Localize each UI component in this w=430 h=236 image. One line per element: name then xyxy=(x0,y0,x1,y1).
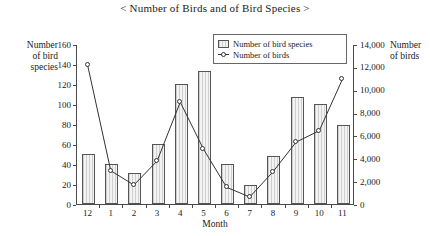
right-axis-title: Number of birds xyxy=(390,40,430,62)
y-tick-left-60: 60 xyxy=(43,141,71,150)
bar-month-5 xyxy=(198,71,211,204)
x-tick-mark-11 xyxy=(331,205,332,208)
y-tick-right-2000: 2,000 xyxy=(360,178,394,187)
y-tick-left-20: 20 xyxy=(43,181,71,190)
legend-label-bird-species: Number of bird species xyxy=(233,39,313,49)
x-tick-month-1: 1 xyxy=(101,209,121,218)
y-tick-mark-left-140 xyxy=(73,65,76,66)
y-tick-mark-right-8000 xyxy=(354,114,357,115)
y-tick-left-140: 140 xyxy=(43,61,71,70)
bar-month-3 xyxy=(152,144,165,204)
bar-month-2 xyxy=(128,173,141,204)
bar-swatch-icon xyxy=(218,40,229,48)
y-tick-right-4000: 4,000 xyxy=(360,155,394,164)
bar-month-12 xyxy=(82,154,95,204)
bar-month-7 xyxy=(244,185,257,204)
bar-month-8 xyxy=(267,156,280,204)
y-tick-mark-right-10000 xyxy=(354,91,357,92)
y-tick-right-8000: 8,000 xyxy=(360,109,394,118)
x-tick-month-9: 9 xyxy=(286,209,306,218)
right-axis-title-line1: Number xyxy=(390,40,430,51)
y-tick-left-40: 40 xyxy=(43,161,71,170)
y-tick-right-12000: 12,000 xyxy=(360,63,394,72)
right-axis-title-line2: of birds xyxy=(390,51,430,62)
bar-month-1 xyxy=(105,164,118,204)
bar-month-6 xyxy=(221,164,234,204)
y-tick-mark-right-14000 xyxy=(354,45,357,46)
y-tick-left-0: 0 xyxy=(43,201,71,210)
bar-month-10 xyxy=(314,104,327,204)
bar-month-4 xyxy=(175,84,188,204)
y-tick-left-80: 80 xyxy=(43,121,71,130)
y-tick-mark-left-120 xyxy=(73,85,76,86)
x-tick-mark-5 xyxy=(192,205,193,208)
line-marker-swatch-icon xyxy=(218,51,229,59)
x-tick-mark-10 xyxy=(308,205,309,208)
x-tick-month-11: 11 xyxy=(332,209,352,218)
x-tick-month-4: 4 xyxy=(170,209,190,218)
x-tick-month-3: 3 xyxy=(147,209,167,218)
x-axis-title: Month xyxy=(76,219,354,229)
y-tick-mark-right-12000 xyxy=(354,68,357,69)
y-tick-mark-right-6000 xyxy=(354,136,357,137)
y-tick-mark-right-4000 xyxy=(354,159,357,160)
y-tick-left-160: 160 xyxy=(43,41,71,50)
x-tick-mark-9 xyxy=(285,205,286,208)
chart-title: < Number of Birds and of Bird Species > xyxy=(0,2,430,14)
x-tick-month-5: 5 xyxy=(193,209,213,218)
x-tick-mark-8 xyxy=(261,205,262,208)
y-tick-mark-right-2000 xyxy=(354,182,357,183)
x-tick-month-6: 6 xyxy=(217,209,237,218)
y-tick-mark-left-160 xyxy=(73,45,76,46)
y-tick-mark-left-0 xyxy=(73,205,76,206)
x-tick-month-2: 2 xyxy=(124,209,144,218)
x-tick-mark-2 xyxy=(122,205,123,208)
legend-entry-birds: Number of birds xyxy=(218,49,342,60)
x-tick-month-7: 7 xyxy=(240,209,260,218)
bar-month-9 xyxy=(291,97,304,204)
x-tick-mark-7 xyxy=(238,205,239,208)
legend-entry-bird-species: Number of bird species xyxy=(218,38,342,49)
x-tick-mark-3 xyxy=(146,205,147,208)
x-tick-mark-4 xyxy=(169,205,170,208)
y-tick-left-100: 100 xyxy=(43,101,71,110)
y-tick-mark-left-60 xyxy=(73,145,76,146)
y-tick-right-14000: 14,000 xyxy=(360,41,394,50)
plot-area xyxy=(76,45,354,205)
y-tick-mark-left-100 xyxy=(73,105,76,106)
y-tick-right-10000: 10,000 xyxy=(360,86,394,95)
x-tick-month-8: 8 xyxy=(263,209,283,218)
x-tick-mark-6 xyxy=(215,205,216,208)
y-tick-right-6000: 6,000 xyxy=(360,132,394,141)
x-tick-mark-1 xyxy=(99,205,100,208)
y-tick-right-0: 0 xyxy=(360,201,394,210)
chart-legend: Number of bird species Number of birds xyxy=(213,34,347,64)
y-tick-mark-left-20 xyxy=(73,185,76,186)
y-tick-mark-left-40 xyxy=(73,165,76,166)
x-tick-month-12: 12 xyxy=(78,209,98,218)
y-tick-mark-left-80 xyxy=(73,125,76,126)
legend-label-birds: Number of birds xyxy=(233,50,289,60)
y-tick-mark-right-0 xyxy=(354,205,357,206)
x-tick-month-10: 10 xyxy=(309,209,329,218)
y-tick-left-120: 120 xyxy=(43,81,71,90)
bar-month-11 xyxy=(337,125,350,204)
